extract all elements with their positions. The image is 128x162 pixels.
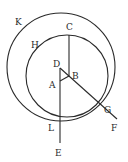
circle-k [7,13,115,121]
label-g: G [104,105,111,115]
label-l: L [48,123,54,133]
geometry-diagram: K C H D B A G L F E [0,0,128,162]
label-c: C [66,22,73,32]
label-e: E [55,148,62,158]
label-d: D [53,59,60,69]
label-k: K [15,17,22,27]
segment-ab [60,76,69,81]
label-h: H [31,40,39,50]
label-f: F [111,123,117,133]
label-a: A [48,80,56,90]
label-b: B [72,71,79,81]
